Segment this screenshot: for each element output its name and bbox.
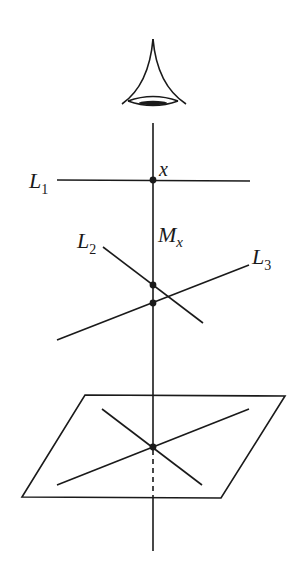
label-x: x xyxy=(158,158,168,180)
eye-icon xyxy=(122,39,186,106)
point-x xyxy=(150,177,157,184)
projection-diagram: L1 x Mx L2 L3 xyxy=(0,0,300,579)
label-Mx: Mx xyxy=(157,222,183,250)
point-L2-intersection xyxy=(150,282,157,289)
point-plane-intersection xyxy=(150,444,157,451)
label-L3: L3 xyxy=(251,244,271,273)
label-L1: L1 xyxy=(28,168,48,197)
label-L2: L2 xyxy=(76,228,96,257)
point-L3-intersection xyxy=(150,300,157,307)
